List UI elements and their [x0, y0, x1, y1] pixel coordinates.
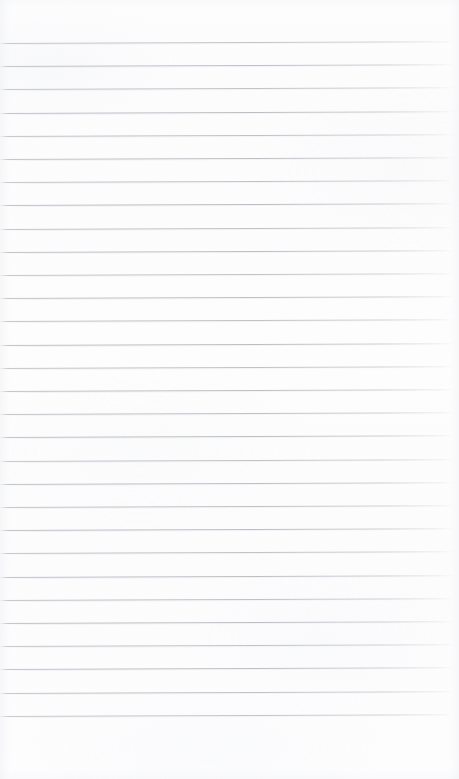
lined-paper-page [0, 0, 459, 779]
handwriting-content-area [0, 0, 459, 779]
